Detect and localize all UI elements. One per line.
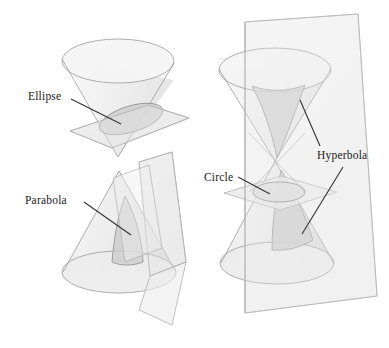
- circle-hyperbola-panel: [219, 14, 377, 313]
- hyperbola-label: Hyperbola: [317, 149, 367, 161]
- circle-label: Circle: [204, 171, 233, 183]
- parabola-panel: [62, 152, 186, 325]
- parabola-cutting-plane-front: [113, 152, 186, 325]
- conic-sections-illustration: [0, 0, 389, 348]
- ellipse-panel: [62, 39, 189, 157]
- ellipse-label: Ellipse: [28, 90, 61, 102]
- conic-sections-figure: Ellipse Parabola Circle Hyperbola: [0, 0, 389, 348]
- ellipse-cutting-plane-front: [70, 105, 189, 148]
- hyperbola-cutting-plane-front: [245, 14, 377, 313]
- parabola-label: Parabola: [25, 194, 67, 206]
